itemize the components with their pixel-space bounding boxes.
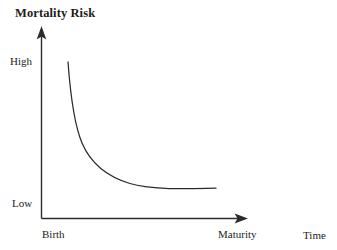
mortality-risk-curve (68, 62, 216, 189)
x-axis-title: Time (303, 230, 326, 241)
y-axis-tick-label-high: High (10, 56, 32, 67)
chart-canvas (0, 0, 337, 250)
mortality-risk-chart: Mortality Risk High Low Birth Maturity T… (0, 0, 337, 250)
y-axis-tick-label-low: Low (12, 198, 32, 209)
x-axis-tick-label-birth: Birth (42, 229, 65, 240)
x-axis-tick-label-maturity: Maturity (218, 229, 257, 240)
chart-title: Mortality Risk (15, 7, 95, 20)
